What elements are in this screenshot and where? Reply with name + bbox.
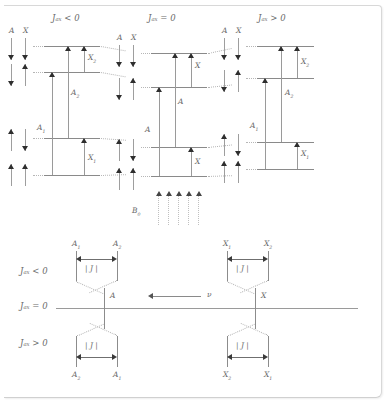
transition-label-a-upper-mid: A <box>178 98 183 106</box>
a-bottom-right-label: A1 <box>113 371 121 381</box>
spin-arrow-a-state2-mid <box>115 78 124 100</box>
a-top-coupling-measure <box>80 259 113 260</box>
spin-arrow-x-state3-right <box>234 134 243 156</box>
transition-x-upper-arrow-mid <box>188 53 194 58</box>
transition-label-x2-left: X2 <box>88 54 96 64</box>
x-bottom-measure-left-head <box>227 354 232 360</box>
spectrum-row-label-positive: Jₐₓ > 0 <box>20 339 48 348</box>
spin-arrow-x-state2-left <box>21 64 30 86</box>
spectrum-baseline <box>56 308 358 309</box>
transition-label-a2-right: A2 <box>285 89 293 99</box>
energy-level-4-right <box>257 169 314 170</box>
transition-a1-arrow-left <box>49 72 55 77</box>
transition-x1-line-left <box>84 138 85 175</box>
b-field-label: B0 <box>132 207 140 217</box>
spin-arrow-a-state4-left <box>7 164 16 186</box>
energy-level-4-left <box>44 175 100 176</box>
transition-x-lower-arrow-mid <box>188 147 194 152</box>
panel-header-negative: Jₐₓ < 0 <box>52 14 80 23</box>
figure-page: Jₐₓ < 0 Jₐₓ = 0 Jₐₓ > 0 A X A1 A2 X2 X1 … <box>0 0 391 407</box>
x-center-line <box>255 288 256 329</box>
b-field-arrow-4 <box>186 191 191 225</box>
x-top-measure-right-head <box>263 256 268 262</box>
spin-col-header-a-mid: A <box>117 34 122 42</box>
x-top-measure-left-head <box>227 256 232 262</box>
energy-level-4-mid <box>151 176 207 177</box>
transition-x2-arrow-right <box>294 46 300 51</box>
b-field-arrow-2 <box>166 191 171 225</box>
x-bottom-right-line <box>268 336 269 367</box>
page-frame <box>4 5 382 398</box>
a-bottom-measure-left-head <box>76 354 81 360</box>
spin-arrow-x-state1-mid <box>129 45 138 67</box>
transition-label-a2-left: A2 <box>71 89 79 99</box>
spin-arrow-x-state2-mid <box>129 78 138 100</box>
transition-label-a1-left: A1 <box>37 124 45 134</box>
panel-header-zero: Jₐₓ = 0 <box>148 14 176 23</box>
spin-arrow-a-state2-left <box>7 64 16 86</box>
spin-arrow-x-state1-right <box>234 38 243 60</box>
spin-arrow-a-state1-mid <box>115 45 124 67</box>
energy-level-1-mid <box>151 53 207 54</box>
spin-col-header-x-left: X <box>23 27 28 35</box>
x-bottom-coupling-label: | J | <box>236 342 249 350</box>
x-top-right-label: X2 <box>264 240 272 250</box>
transition-x2-arrow-left <box>81 46 87 51</box>
energy-level-1-right <box>257 46 314 47</box>
x-top-coupling-label: | J | <box>236 265 249 273</box>
spin-arrow-a-state3-left <box>7 129 16 151</box>
transition-label-x-upper-mid: X <box>195 62 200 70</box>
a-center-line <box>104 288 105 329</box>
spin-arrow-a-state3-mid <box>115 139 124 161</box>
a-bottom-coupling-label: | J | <box>85 342 98 350</box>
transition-x1-arrow-left <box>81 138 87 143</box>
spin-arrow-a-state4-mid <box>115 168 124 190</box>
transition-a-upper-line-mid <box>175 53 176 147</box>
spin-col-header-x-right: X <box>236 27 241 35</box>
b-field-arrow-1 <box>156 191 161 225</box>
a-bottom-left-line <box>76 336 77 367</box>
spectrum-row-label-zero: Jₐₓ = 0 <box>20 302 48 311</box>
x-top-left-label: X1 <box>223 240 231 250</box>
spin-arrow-a-state2-right <box>220 70 229 92</box>
spin-col-header-a-right: A <box>222 27 227 35</box>
x-bottom-left-line <box>227 336 228 367</box>
x-center-label: X <box>261 292 266 300</box>
transition-a-lower-arrow-mid <box>156 87 162 92</box>
a-top-measure-left-head <box>76 256 81 262</box>
a-top-right-line <box>117 251 118 281</box>
a-top-measure-right-head <box>112 256 117 262</box>
transition-a1-arrow-right <box>262 78 268 83</box>
transition-label-a-lower-mid: A <box>145 126 150 134</box>
a-bottom-right-line <box>117 336 118 367</box>
b-field-arrow-5 <box>196 191 201 225</box>
a-top-left-label: A1 <box>72 240 80 250</box>
spin-arrow-x-state3-left <box>21 129 30 151</box>
spin-arrow-a-state3-right <box>220 134 229 156</box>
frequency-axis-line <box>153 296 201 297</box>
transition-label-a1-right: A1 <box>250 122 258 132</box>
a-center-label: A <box>110 292 115 300</box>
spin-arrow-a-state1-right <box>220 38 229 60</box>
a-top-coupling-label: | J | <box>85 265 98 273</box>
transition-a1-line-left <box>52 72 53 175</box>
energy-level-1-left <box>44 46 100 47</box>
spin-arrow-x-state2-right <box>234 70 243 92</box>
x-bottom-right-label: X1 <box>264 371 272 381</box>
panel-header-positive: Jₐₓ > 0 <box>258 14 286 23</box>
x-bottom-left-label: X2 <box>223 371 231 381</box>
transition-label-x1-right: X1 <box>301 150 309 160</box>
frequency-axis-arrowhead <box>148 293 153 299</box>
a-bottom-left-label: A2 <box>72 371 80 381</box>
transition-a-lower-line-mid <box>159 87 160 176</box>
spin-arrow-x-state3-mid <box>129 139 138 161</box>
b-field-arrow-3 <box>176 191 181 225</box>
transition-x1-arrow-right <box>294 142 300 147</box>
spin-arrow-a-state4-right <box>220 161 229 183</box>
transition-a-upper-arrow-mid <box>172 53 178 58</box>
spectrum-row-label-negative: Jₐₓ < 0 <box>20 267 48 276</box>
transition-label-x-lower-mid: X <box>195 158 200 166</box>
transition-a2-arrow-left <box>65 46 71 51</box>
spin-col-header-a-left: A <box>9 27 14 35</box>
spin-arrow-x-state4-left <box>21 164 30 186</box>
